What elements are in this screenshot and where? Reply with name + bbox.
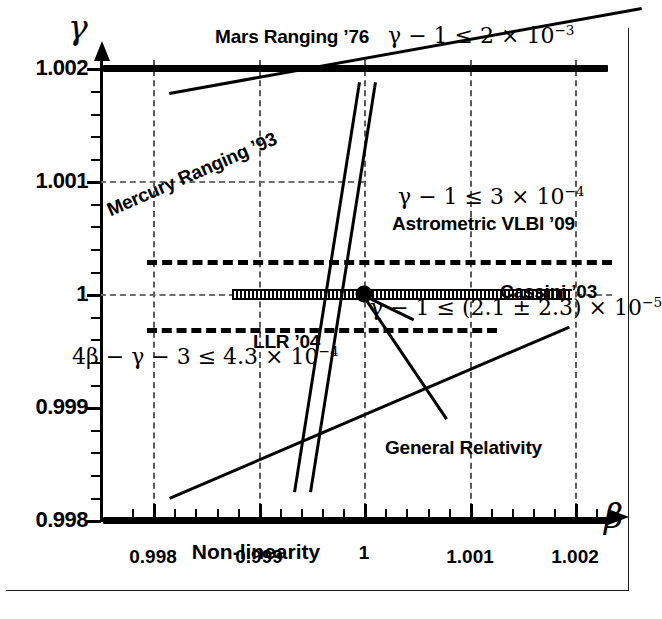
gridline-v-0998 (153, 60, 155, 519)
x-axis-arrow-icon (608, 509, 629, 525)
mars-ranging-upper-bound-line (103, 65, 608, 72)
y-minor-tick (91, 475, 101, 477)
mars-ranging-label: Mars Ranging ’76 (215, 26, 369, 48)
y-minor-tick (91, 91, 101, 93)
y-minor-tick (91, 249, 101, 251)
y-major-tick-1001 (87, 181, 101, 184)
y-minor-tick (91, 136, 101, 138)
vlbi-label: Astrometric VLBI ’09 (392, 213, 575, 235)
mercury-ranging-upper-line (169, 7, 642, 95)
y-minor-tick (91, 226, 101, 228)
llr-equation-exponent: −4 (319, 343, 339, 359)
x-tick-label-0998: 0.998 (129, 546, 177, 568)
cassini-equation-prefix: γ − 1 ≤ (2.1 ± 2.3) × 10 (370, 295, 642, 320)
mars-ranging-equation-exponent: −3 (554, 22, 574, 38)
y-minor-tick (91, 498, 101, 500)
vlbi-lower-bound-line (147, 328, 497, 333)
llr-equation: 4β − γ − 3 ≤ 4.3 × 10−4 (72, 343, 339, 369)
x-tick-label-1: 1 (359, 542, 370, 564)
cassini-equation: γ − 1 ≤ (2.1 ± 2.3) × 10−5 (370, 294, 662, 320)
y-tick-label-1002: 1.002 (35, 55, 88, 81)
cassini-equation-exponent: −5 (642, 294, 662, 310)
y-tick-label-0999: 0.999 (35, 394, 88, 420)
y-major-tick-1 (87, 294, 101, 297)
y-minor-tick (91, 430, 101, 432)
y-minor-tick (91, 339, 101, 341)
llr-equation-prefix: 4β − γ − 3 ≤ 4.3 × 10 (72, 344, 319, 369)
y-major-tick-0998 (87, 520, 101, 523)
y-axis-symbol-gamma: γ (68, 8, 88, 47)
y-major-tick-1002 (87, 68, 101, 71)
gridline-h-1001 (100, 181, 364, 183)
y-tick-label-1001: 1.001 (35, 168, 88, 194)
y-minor-tick (91, 272, 101, 274)
figure-frame-bottom-border (6, 590, 629, 591)
vlbi-upper-bound-line (147, 260, 612, 265)
mars-ranging-equation: γ − 1 ≤ 2 × 10−3 (388, 22, 575, 48)
x-tick-label-0999: 0.999 (235, 546, 283, 568)
y-minor-tick (91, 317, 101, 319)
y-minor-tick (91, 385, 101, 387)
vlbi-equation-prefix: γ − 1 ≤ 3 × 10 (398, 184, 564, 209)
vlbi-equation: γ − 1 ≤ 3 × 10−4 (398, 183, 585, 209)
y-minor-tick (91, 159, 101, 161)
y-axis-arrow-icon (94, 41, 110, 61)
x-tick-label-1002: 1.002 (551, 546, 599, 568)
y-minor-tick (91, 452, 101, 454)
y-minor-tick (91, 114, 101, 116)
y-tick-label-0998: 0.998 (35, 507, 88, 533)
vlbi-equation-exponent: −4 (564, 183, 584, 199)
x-tick-label-1001: 1.001 (446, 546, 494, 568)
mars-ranging-equation-prefix: γ − 1 ≤ 2 × 10 (388, 23, 554, 48)
general-relativity-label: General Relativity (385, 437, 542, 459)
y-major-tick-0999 (87, 407, 101, 410)
mars-ranging-lower-bound-line (103, 517, 608, 524)
y-minor-tick (91, 204, 101, 206)
